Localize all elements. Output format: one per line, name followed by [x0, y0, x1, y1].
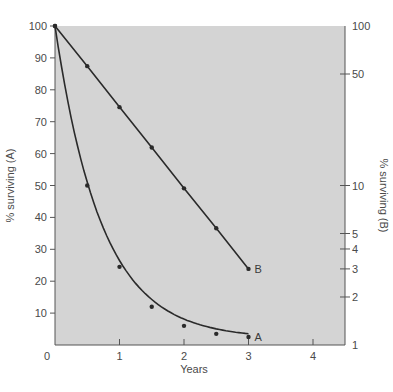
series-b-point	[214, 226, 218, 230]
x-tick-label: 0	[44, 350, 50, 362]
series-b-point	[53, 24, 57, 28]
y-right-tick-label: 1	[352, 339, 358, 351]
series-a-label: A	[255, 331, 263, 343]
y-axis-left: 102030405060708090100	[29, 20, 55, 345]
y-axis-right: 123451050100	[340, 20, 370, 351]
survival-chart: 01234 102030405060708090100 123451050100…	[0, 0, 393, 392]
series-a-point	[85, 183, 89, 187]
y-left-tick-label: 80	[35, 84, 47, 96]
series-b-point	[150, 145, 154, 149]
y-left-tick-label: 70	[35, 116, 47, 128]
y-left-tick-label: 50	[35, 180, 47, 192]
y-right-tick-label: 5	[352, 228, 358, 240]
y-right-tick-label: 4	[352, 243, 358, 255]
y-left-tick-label: 100	[29, 20, 47, 32]
series-a-point	[117, 265, 121, 269]
y-left-tick-label: 90	[35, 52, 47, 64]
series-a-point	[182, 324, 186, 328]
y-right-tick-label: 100	[352, 20, 370, 32]
y-left-tick-label: 60	[35, 148, 47, 160]
series-a-point	[214, 332, 218, 336]
y-right-tick-label: 50	[352, 68, 364, 80]
plot-area	[55, 26, 345, 345]
y-left-tick-label: 10	[35, 307, 47, 319]
series-b-point	[117, 105, 121, 109]
x-tick-label: 3	[245, 350, 251, 362]
x-tick-label: 1	[116, 350, 122, 362]
y-left-tick-label: 30	[35, 243, 47, 255]
series-b-label: B	[255, 263, 262, 275]
series-b-point	[246, 267, 250, 271]
y-right-tick-label: 10	[352, 180, 364, 192]
y-left-tick-label: 20	[35, 275, 47, 287]
series-b-point	[182, 186, 186, 190]
y-right-tick-label: 3	[352, 263, 358, 275]
y-right-tick-label: 2	[352, 291, 358, 303]
series-a-point	[150, 305, 154, 309]
x-axis-title: Years	[180, 363, 208, 375]
y-left-tick-label: 40	[35, 211, 47, 223]
y-axis-right-title: % surviving (B)	[378, 159, 390, 233]
series-b-point	[85, 64, 89, 68]
x-tick-label: 2	[181, 350, 187, 362]
series-a-point	[246, 335, 250, 339]
x-tick-label: 4	[310, 350, 316, 362]
y-axis-left-title: % surviving (A)	[4, 149, 16, 223]
